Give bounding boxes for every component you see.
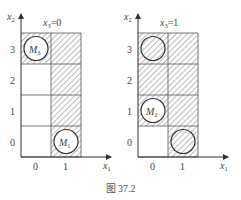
x-axis-label: x1 — [102, 160, 111, 172]
y-tick-label: 2 — [10, 75, 15, 86]
y-tick-label: 0 — [127, 137, 132, 148]
machine-circle-icon — [141, 37, 165, 61]
panel-x3-1: x2x1x3=1321001M2 — [123, 11, 228, 172]
panel-title: x3=0 — [42, 17, 61, 29]
hatched-cell — [138, 64, 168, 95]
x-tick-label: 1 — [63, 161, 68, 172]
y-tick-label: 1 — [10, 106, 15, 117]
x-tick-label: 1 — [180, 161, 185, 172]
y-axis-label: x2 — [6, 11, 15, 23]
hatched-cell — [168, 64, 198, 95]
panel-x3-0: x2x1x3=0321001M3M1 — [6, 11, 111, 172]
x-axis-label: x1 — [219, 160, 228, 172]
x-tick-label: 0 — [150, 161, 155, 172]
figure-canvas: x2x1x3=0321001M3M1 x2x1x3=1321001M2 — [0, 0, 241, 200]
hatched-cell — [51, 33, 81, 64]
y-tick-label: 1 — [127, 106, 132, 117]
figure-caption: 图 37.2 — [0, 180, 241, 195]
hatched-cell — [51, 95, 81, 126]
hatched-cell — [168, 95, 198, 126]
machine-circle-icon — [171, 130, 195, 154]
y-axis-label: x2 — [123, 11, 132, 23]
y-tick-label: 0 — [10, 137, 15, 148]
y-tick-label: 2 — [127, 75, 132, 86]
hatched-cell — [168, 33, 198, 64]
x-tick-label: 0 — [33, 161, 38, 172]
panel-title: x3=1 — [159, 17, 178, 29]
y-tick-label: 3 — [127, 44, 132, 55]
y-tick-label: 3 — [10, 44, 15, 55]
hatched-cell — [51, 64, 81, 95]
